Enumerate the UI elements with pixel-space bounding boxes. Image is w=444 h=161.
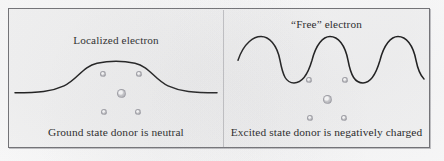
dot-bottom-right	[135, 109, 141, 115]
figure-container: Localized electron Ground state donor is…	[0, 0, 444, 161]
dot-bottom-right	[341, 115, 347, 121]
figure-frame: Localized electron Ground state donor is…	[8, 8, 430, 148]
panel-ground-state: Localized electron Ground state donor is…	[9, 9, 223, 147]
dot-center	[117, 89, 126, 98]
dot-top-right	[342, 77, 348, 83]
dot-top-right	[136, 71, 142, 77]
donor-atom-dots-ground	[98, 69, 150, 121]
dot-bottom-left	[307, 115, 313, 121]
dot-center	[323, 95, 332, 104]
ground-state-bottom-caption: Ground state donor is neutral	[9, 126, 223, 138]
donor-atom-dots-excited	[304, 75, 356, 127]
dot-bottom-left	[101, 109, 107, 115]
dot-top-left	[100, 71, 106, 77]
dot-top-left	[306, 77, 312, 83]
excited-state-bottom-caption: Excited state donor is negatively charge…	[224, 126, 429, 138]
panel-excited-state: “Free” electron Excited state donor is n…	[224, 9, 429, 147]
